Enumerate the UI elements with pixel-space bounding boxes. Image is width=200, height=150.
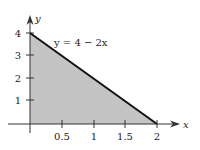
y-axis-label: y (34, 13, 41, 24)
x-tick-label: 1.5 (117, 131, 133, 142)
y-tick-label: 2 (15, 73, 21, 84)
area-chart: 0.5 1 1.5 2 1 2 3 4 x y y = 4 − 2x (0, 0, 200, 150)
y-tick-label: 3 (15, 50, 21, 61)
x-tick-label: 2 (154, 131, 160, 142)
x-tick-label: 1 (91, 131, 97, 142)
y-tick-label: 1 (15, 95, 21, 106)
y-tick-label: 4 (15, 28, 21, 39)
x-tick-label: 0.5 (54, 131, 70, 142)
x-axis-label: x (183, 119, 189, 130)
curve-equation-label: y = 4 − 2x (53, 37, 108, 48)
